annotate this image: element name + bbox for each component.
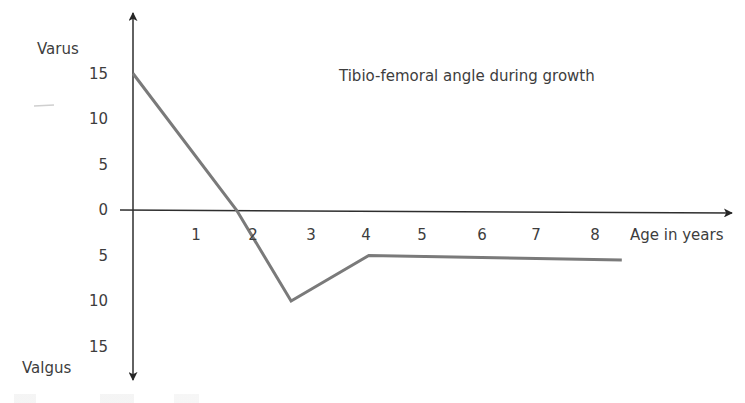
x-axis [120, 210, 732, 213]
x-tick-label: 2 [248, 226, 258, 244]
stray-mark [34, 105, 54, 106]
x-axis-label: Age in years [630, 226, 724, 244]
y-tick-label: 10 [89, 292, 108, 310]
y-tick-label: 15 [89, 338, 108, 356]
x-tick-label: 6 [477, 226, 487, 244]
y-ticks-valgus: 51015 [89, 247, 108, 356]
cropped-caption [14, 394, 214, 403]
chart-title: Tibio-femoral angle during growth [338, 67, 595, 85]
x-tick-label: 1 [191, 226, 201, 244]
x-tick-label: 5 [417, 226, 427, 244]
y-ticks-varus: 151050 [89, 65, 108, 220]
data-line [133, 74, 622, 302]
chart: Varus Valgus 151050 51015 12345678 Age i… [0, 0, 745, 403]
x-ticks: 12345678 [191, 226, 600, 244]
y-tick-label: 5 [98, 156, 108, 174]
y-tick-label: 15 [89, 65, 108, 83]
x-tick-label: 8 [590, 226, 600, 244]
y-tick-label: 10 [89, 110, 108, 128]
x-tick-label: 7 [531, 226, 541, 244]
y-label-valgus: Valgus [22, 359, 71, 377]
y-label-varus: Varus [37, 40, 79, 58]
y-tick-label: 0 [98, 201, 108, 219]
y-tick-label: 5 [98, 247, 108, 265]
x-tick-label: 4 [361, 226, 371, 244]
x-tick-label: 3 [306, 226, 316, 244]
